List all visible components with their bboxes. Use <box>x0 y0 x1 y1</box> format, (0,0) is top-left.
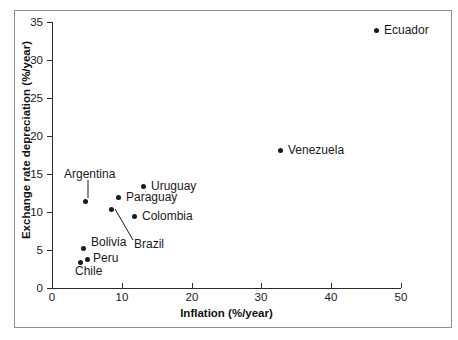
data-point-paraguay <box>116 195 121 200</box>
y-tick-0 <box>47 288 52 289</box>
y-tick-label-35: 35 <box>21 16 43 28</box>
data-label-bolivia: Bolivia <box>91 236 126 248</box>
x-tick-label-40: 40 <box>318 291 344 303</box>
y-tick-15 <box>47 174 52 175</box>
x-tick-0 <box>52 283 53 288</box>
x-tick-50 <box>401 283 402 288</box>
figure: 0 5 10 15 20 25 30 35 0 10 20 30 40 50 E… <box>0 0 458 340</box>
data-point-bolivia <box>81 246 86 251</box>
x-tick-30 <box>261 283 262 288</box>
x-tick-label-50: 50 <box>388 291 414 303</box>
y-axis-title: Exchange rate depreciation (%/year) <box>20 40 32 240</box>
data-label-brazil: Brazil <box>134 238 164 250</box>
y-tick-10 <box>47 212 52 213</box>
data-point-peru <box>85 257 90 262</box>
data-label-venezuela: Venezuela <box>288 144 344 156</box>
x-tick-20 <box>192 283 193 288</box>
y-axis-line <box>52 22 53 289</box>
data-point-ecuador <box>374 28 379 33</box>
data-label-peru: Peru <box>93 252 118 264</box>
data-point-colombia <box>132 214 137 219</box>
y-tick-25 <box>47 98 52 99</box>
y-tick-35 <box>47 22 52 23</box>
data-label-ecuador: Ecuador <box>384 24 429 36</box>
x-axis-title: Inflation (%/year) <box>52 307 401 319</box>
x-tick-label-0: 0 <box>39 291 65 303</box>
data-label-paraguay: Paraguay <box>126 191 177 203</box>
y-tick-20 <box>47 136 52 137</box>
data-label-chile: Chile <box>75 265 102 277</box>
data-label-argentina: Argentina <box>64 168 115 180</box>
y-tick-label-5: 5 <box>21 244 43 256</box>
x-tick-label-20: 20 <box>179 291 205 303</box>
x-tick-label-10: 10 <box>109 291 135 303</box>
data-point-brazil <box>109 207 114 212</box>
data-point-argentina <box>83 199 88 204</box>
data-label-colombia: Colombia <box>142 210 193 222</box>
x-tick-10 <box>122 283 123 288</box>
y-tick-5 <box>47 250 52 251</box>
data-point-venezuela <box>278 148 283 153</box>
x-axis-line <box>52 288 401 289</box>
x-tick-label-30: 30 <box>248 291 274 303</box>
x-tick-40 <box>331 283 332 288</box>
data-point-uruguay <box>141 184 146 189</box>
y-tick-30 <box>47 60 52 61</box>
